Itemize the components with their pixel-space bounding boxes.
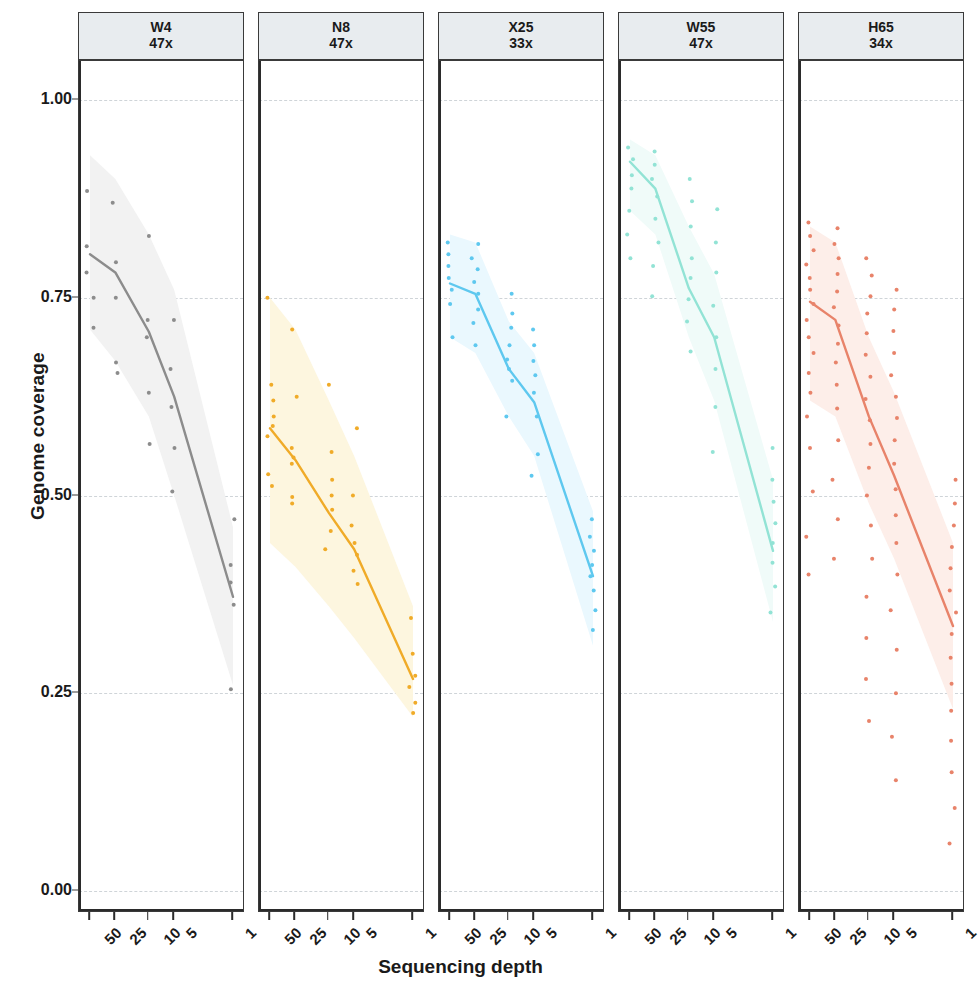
data-point bbox=[470, 256, 474, 260]
data-point bbox=[835, 383, 839, 387]
data-point bbox=[867, 719, 871, 723]
data-point bbox=[111, 201, 115, 205]
data-point bbox=[92, 296, 96, 300]
y-tick-label: 0.00 bbox=[41, 881, 72, 899]
x-tick-label: 50 bbox=[281, 924, 305, 948]
confidence-ribbon bbox=[270, 298, 413, 717]
data-point bbox=[148, 442, 152, 446]
facet-strip-name: W55 bbox=[687, 20, 716, 36]
facet-strip-depth: 47x bbox=[329, 36, 352, 52]
x-tick-mark bbox=[327, 912, 329, 920]
facet-strip-x25: X2533x bbox=[438, 12, 604, 60]
data-point bbox=[626, 145, 630, 149]
data-point bbox=[865, 494, 869, 498]
data-point bbox=[869, 524, 873, 528]
data-point bbox=[593, 608, 597, 612]
data-point bbox=[229, 563, 233, 567]
data-point bbox=[812, 248, 816, 252]
data-point bbox=[894, 778, 898, 782]
data-point bbox=[895, 648, 899, 652]
panel-axis-bottom bbox=[79, 909, 243, 911]
data-point bbox=[812, 351, 816, 355]
series-layer bbox=[439, 61, 604, 912]
data-point bbox=[804, 263, 808, 267]
x-tick-mark bbox=[294, 912, 296, 920]
facet-strip-w4: W447x bbox=[78, 12, 244, 60]
data-point bbox=[651, 264, 655, 268]
data-point bbox=[808, 391, 812, 395]
data-point bbox=[868, 442, 872, 446]
data-point bbox=[627, 209, 631, 213]
data-point bbox=[476, 308, 480, 312]
data-point bbox=[805, 318, 809, 322]
data-point bbox=[147, 234, 151, 238]
data-point bbox=[954, 478, 958, 482]
data-point bbox=[630, 173, 634, 177]
data-point bbox=[894, 541, 898, 545]
data-point bbox=[807, 335, 811, 339]
data-point bbox=[864, 353, 868, 357]
series-layer bbox=[619, 61, 784, 912]
data-point bbox=[892, 351, 896, 355]
data-point bbox=[949, 566, 953, 570]
data-point bbox=[409, 616, 413, 620]
data-point bbox=[352, 569, 356, 573]
data-point bbox=[631, 157, 635, 161]
data-point bbox=[327, 383, 331, 387]
data-point bbox=[588, 535, 592, 539]
data-point bbox=[266, 472, 270, 476]
data-point bbox=[510, 292, 514, 296]
panel-axis-left bbox=[619, 61, 621, 911]
data-point bbox=[894, 513, 898, 517]
data-point bbox=[836, 226, 840, 230]
data-point bbox=[954, 611, 958, 615]
data-point bbox=[892, 308, 896, 312]
data-point bbox=[592, 588, 596, 592]
data-point bbox=[295, 395, 299, 399]
data-point bbox=[531, 327, 535, 331]
x-tick-mark bbox=[448, 912, 450, 920]
x-tick-mark bbox=[507, 912, 509, 920]
facet-strip-depth: 34x bbox=[869, 36, 892, 52]
y-tick-label: 0.50 bbox=[41, 486, 72, 504]
data-point bbox=[868, 294, 872, 298]
data-point bbox=[804, 535, 808, 539]
data-point bbox=[533, 373, 537, 377]
data-point bbox=[85, 244, 89, 248]
data-point bbox=[713, 367, 717, 371]
data-point bbox=[450, 288, 454, 292]
panel-axis-bottom bbox=[799, 909, 963, 911]
data-point bbox=[892, 462, 896, 466]
x-tick-label: 5 bbox=[723, 924, 741, 942]
x-tick-mark bbox=[892, 912, 894, 920]
data-point bbox=[169, 367, 173, 371]
data-point bbox=[172, 446, 176, 450]
data-point bbox=[509, 326, 513, 330]
data-point bbox=[950, 770, 954, 774]
data-point bbox=[329, 529, 333, 533]
data-point bbox=[834, 361, 838, 365]
data-point bbox=[472, 280, 476, 284]
data-point bbox=[711, 304, 715, 308]
plot-area-w4 bbox=[78, 60, 244, 912]
facet-strip-depth: 33x bbox=[509, 36, 532, 52]
data-point bbox=[894, 691, 898, 695]
data-point bbox=[870, 274, 874, 278]
panel-axis-left bbox=[79, 61, 81, 911]
x-tick-mark bbox=[687, 912, 689, 920]
data-point bbox=[836, 438, 840, 442]
x-tick-label: 1 bbox=[241, 924, 259, 942]
data-point bbox=[950, 545, 954, 549]
data-point bbox=[355, 426, 359, 430]
facet-strip-n8: N847x bbox=[258, 12, 424, 60]
data-point bbox=[807, 573, 811, 577]
x-tick-label: 50 bbox=[821, 924, 845, 948]
x-tick-label: 10 bbox=[520, 924, 544, 948]
data-point bbox=[948, 842, 952, 846]
data-point bbox=[656, 240, 660, 244]
data-point bbox=[114, 260, 118, 264]
data-point bbox=[687, 297, 691, 301]
data-point bbox=[272, 414, 276, 418]
data-point bbox=[890, 735, 894, 739]
data-point bbox=[835, 406, 839, 410]
